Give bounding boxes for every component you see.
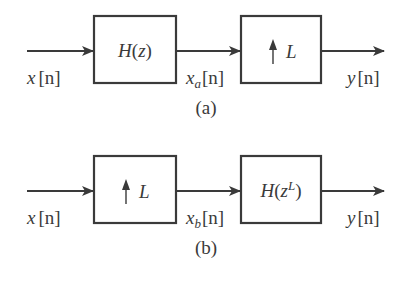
upsampler-factor-b: L	[138, 181, 150, 202]
up-arrow-icon	[269, 39, 277, 64]
filter-label-a: H(z)	[117, 40, 152, 62]
block-diagrams: H(z) L x[n] xa[n] y[n] (a) L H(zL) x[n] …	[0, 0, 410, 282]
intermediate-signal-label-b: xb[n]	[185, 207, 224, 231]
diagram-b: L H(zL) x[n] xb[n] y[n] (b)	[26, 156, 384, 259]
input-signal-label-a: x[n]	[26, 67, 61, 88]
output-signal-label-a: y[n]	[345, 67, 380, 88]
intermediate-signal-label-a: xa[n]	[185, 67, 224, 91]
upsampler-block-b	[94, 156, 176, 223]
caption-b: (b)	[195, 237, 217, 259]
upsampler-block-a	[241, 16, 321, 83]
caption-a: (a)	[195, 97, 216, 119]
input-signal-label-b: x[n]	[26, 207, 61, 228]
up-arrow-icon	[122, 179, 130, 204]
filter-label-b: H(zL)	[259, 178, 301, 202]
upsampler-factor-a: L	[285, 41, 297, 62]
output-signal-label-b: y[n]	[345, 207, 380, 228]
diagram-a: H(z) L x[n] xa[n] y[n] (a)	[26, 16, 384, 119]
